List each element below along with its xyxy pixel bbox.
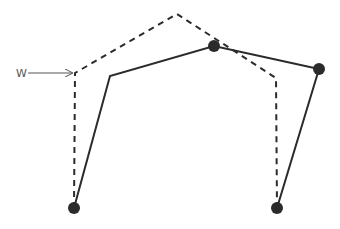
dashed-polyline bbox=[74, 14, 277, 208]
nodes-group bbox=[68, 40, 325, 214]
node-top-middle bbox=[208, 40, 220, 52]
node-bottom-right bbox=[271, 202, 283, 214]
solid-polyline bbox=[74, 46, 319, 208]
diagram-svg bbox=[0, 0, 340, 229]
node-right bbox=[313, 63, 325, 75]
node-bottom-left bbox=[68, 202, 80, 214]
w-label: W bbox=[16, 68, 27, 79]
diagram-canvas: W bbox=[0, 0, 340, 229]
